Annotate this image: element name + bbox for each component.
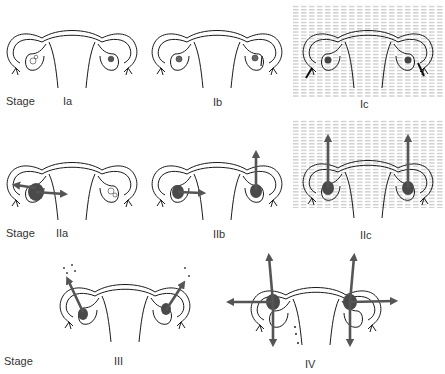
tumor-left-small bbox=[30, 55, 38, 64]
uterus-diagram-iib bbox=[147, 140, 287, 225]
label-ib: Ib bbox=[213, 96, 222, 108]
peritoneal-seeding-dots bbox=[63, 264, 190, 277]
panel-stage-ia bbox=[2, 8, 142, 93]
ascites-shading bbox=[293, 5, 444, 97]
uterus-diagram-iii bbox=[55, 262, 195, 347]
row-2-stage-label: Stage bbox=[6, 227, 35, 239]
label-ic: Ic bbox=[360, 98, 369, 110]
tumor-left bbox=[325, 57, 332, 64]
uterus-diagram-iia bbox=[2, 140, 142, 225]
panel-stage-ic bbox=[293, 5, 444, 97]
uterus-diagram-ic bbox=[293, 5, 444, 97]
panel-stage-iic bbox=[293, 120, 444, 208]
panel-stage-ib bbox=[147, 8, 287, 93]
panel-stage-iv bbox=[228, 255, 403, 350]
panel-stage-iia bbox=[2, 140, 142, 225]
uterus-diagram-iic bbox=[293, 120, 444, 208]
row-3-stage-label: Stage bbox=[4, 355, 33, 367]
label-iv: IV bbox=[305, 358, 315, 370]
panel-stage-iii bbox=[55, 262, 195, 347]
spread-arrow-pelvic bbox=[178, 192, 202, 193]
label-iia: IIa bbox=[56, 227, 68, 239]
uterus-diagram-iv bbox=[228, 255, 403, 350]
label-iic: IIc bbox=[360, 229, 372, 241]
label-iii: III bbox=[114, 355, 123, 367]
label-ia: Ia bbox=[63, 95, 72, 107]
row-1-stage-label: Stage bbox=[6, 95, 35, 107]
spread-arrow-peritoneal-left bbox=[68, 280, 83, 312]
tumor-left-small bbox=[176, 56, 182, 62]
uterus-diagram-ia bbox=[2, 8, 142, 93]
ascites-shading bbox=[293, 120, 444, 208]
tumor-right bbox=[405, 57, 412, 64]
tumor-right-small bbox=[252, 55, 258, 61]
uterus-diagram-ib bbox=[147, 8, 287, 93]
metastasis-dots bbox=[294, 326, 299, 344]
label-iib: IIb bbox=[213, 228, 225, 240]
panel-stage-iib bbox=[147, 140, 287, 225]
tumor-right-small bbox=[108, 56, 114, 62]
